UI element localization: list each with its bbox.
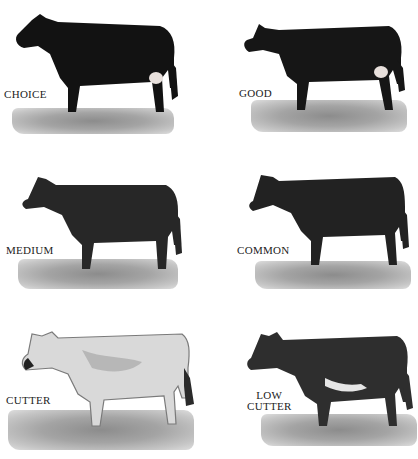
grade-label-low-cutter: LOW CUTTER [247,390,292,412]
grade-label-line-2: CUTTER [247,401,292,412]
cow-illustration-medium [22,171,182,271]
cow-illustration-cutter [22,328,192,428]
panel-cutter: CUTTER [0,306,209,459]
grade-label-medium: MEDIUM [6,245,54,256]
panel-choice: CHOICE [0,0,209,153]
grade-label-good: GOOD [239,88,272,99]
panel-good: GOOD [209,0,418,153]
cow-illustration-low-cutter [247,328,417,428]
cow-illustration-choice [10,8,180,118]
panel-medium: MEDIUM [0,153,209,306]
grade-label-choice: CHOICE [4,89,47,100]
grade-label-common: COMMON [237,245,290,256]
grade-label-cutter: CUTTER [6,395,51,406]
panel-low-cutter: LOW CUTTER [209,306,418,459]
panel-common: COMMON [209,153,418,306]
